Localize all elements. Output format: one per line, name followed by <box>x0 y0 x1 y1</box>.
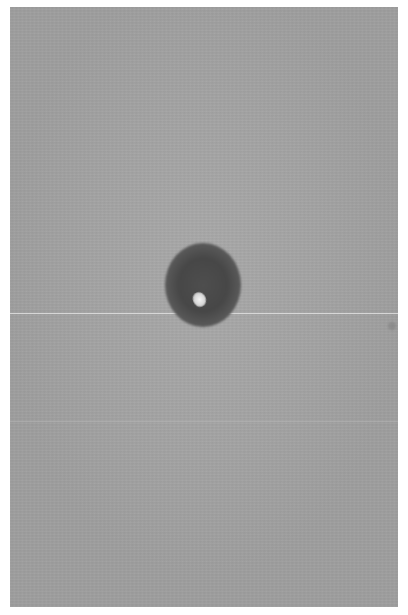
dark-round-spot <box>165 243 241 327</box>
horizontal-faint-line <box>10 421 398 422</box>
small-smudge-mark <box>388 322 396 330</box>
cropped-caption <box>10 609 398 615</box>
photograph <box>10 7 398 607</box>
